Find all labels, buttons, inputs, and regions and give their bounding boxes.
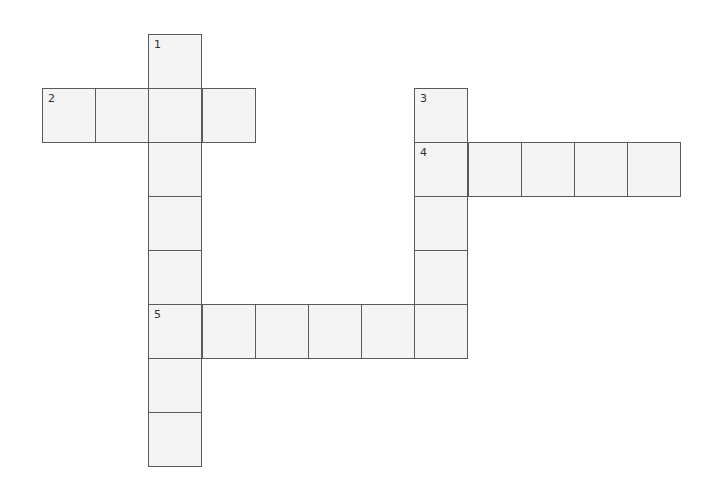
crossword-cell[interactable] <box>202 304 256 359</box>
crossword-cell[interactable] <box>148 412 202 467</box>
crossword-cell[interactable] <box>521 142 575 197</box>
clue-number: 3 <box>420 93 427 104</box>
clue-number: 5 <box>154 309 161 320</box>
crossword-cell[interactable]: 4 <box>414 142 468 197</box>
crossword-cell[interactable] <box>414 304 468 359</box>
crossword-cell[interactable] <box>308 304 362 359</box>
crossword-cell[interactable] <box>148 358 202 413</box>
crossword-grid: 15234 <box>0 0 714 502</box>
crossword-cell[interactable] <box>414 196 468 251</box>
clue-number: 1 <box>154 39 161 50</box>
crossword-cell[interactable]: 2 <box>42 88 96 143</box>
clue-number: 4 <box>420 147 427 158</box>
crossword-cell[interactable] <box>148 196 202 251</box>
crossword-cell[interactable] <box>414 250 468 305</box>
crossword-cell[interactable] <box>361 304 415 359</box>
crossword-cell[interactable]: 5 <box>148 304 202 359</box>
crossword-cell[interactable] <box>148 250 202 305</box>
crossword-cell[interactable]: 3 <box>414 88 468 143</box>
clue-number: 2 <box>48 93 55 104</box>
crossword-cell[interactable] <box>202 88 256 143</box>
crossword-cell[interactable] <box>468 142 522 197</box>
crossword-cell[interactable] <box>148 142 202 197</box>
crossword-cell[interactable] <box>574 142 628 197</box>
crossword-cell[interactable] <box>95 88 149 143</box>
crossword-cell[interactable] <box>627 142 681 197</box>
crossword-cell[interactable] <box>255 304 309 359</box>
crossword-cell[interactable] <box>148 88 202 143</box>
crossword-cell[interactable]: 1 <box>148 34 202 89</box>
